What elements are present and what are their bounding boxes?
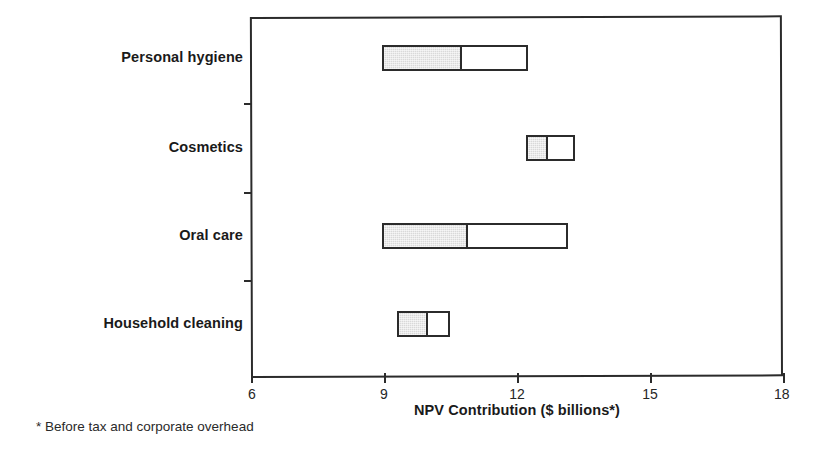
y-axis-labels: Personal hygieneCosmeticsOral careHouseh… (0, 0, 243, 466)
y-axis-label-personal-hygiene: Personal hygiene (8, 49, 243, 65)
x-axis-tick-12 (517, 373, 519, 383)
x-axis-tick-18 (783, 373, 785, 383)
y-axis-label-oral-care: Oral care (8, 227, 243, 243)
x-axis-tick-15 (650, 373, 652, 383)
x-axis-ticklabel-12: 12 (509, 386, 525, 402)
x-axis-title: NPV Contribution ($ billions*) (251, 402, 783, 418)
y-axis-label-cosmetics: Cosmetics (8, 139, 243, 155)
x-axis-tick-6 (251, 373, 253, 383)
bar-cosmetics (526, 135, 575, 161)
bar-segment-open (468, 225, 566, 247)
x-axis-ticklabel-9: 9 (380, 386, 388, 402)
y-axis-label-household-cleaning: Household cleaning (8, 315, 243, 331)
bar-segment-open (428, 313, 448, 335)
bar-segment-open (548, 137, 573, 159)
chart-figure: Personal hygieneCosmeticsOral careHouseh… (0, 0, 835, 466)
bar-segment-open (462, 47, 527, 69)
bar-segment-shaded (384, 225, 468, 247)
bar-household-cleaning (397, 311, 450, 337)
chart-footnote: * Before tax and corporate overhead (36, 419, 254, 434)
bar-segment-shaded (384, 47, 462, 69)
bar-oral-care (382, 223, 568, 249)
x-axis-ticklabel-18: 18 (774, 386, 790, 402)
x-axis-ticklabel-6: 6 (248, 386, 256, 402)
bar-series-layer (251, 17, 783, 378)
bar-segment-shaded (528, 137, 548, 159)
bar-segment-shaded (399, 313, 428, 335)
x-axis-tick-9 (384, 373, 386, 383)
bar-personal-hygiene (382, 45, 528, 71)
x-axis-ticklabel-15: 15 (642, 386, 658, 402)
